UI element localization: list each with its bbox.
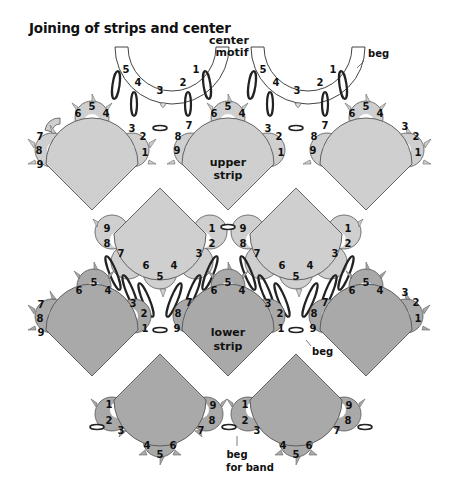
svg-text:3: 3 xyxy=(196,248,203,259)
svg-text:1: 1 xyxy=(142,323,149,334)
svg-text:9: 9 xyxy=(310,145,317,156)
svg-text:3: 3 xyxy=(265,298,272,309)
svg-text:3: 3 xyxy=(129,123,136,134)
svg-text:5: 5 xyxy=(363,277,370,288)
svg-text:4: 4 xyxy=(377,108,384,119)
upper-motif-3 xyxy=(320,118,412,210)
label-beg-top: beg xyxy=(368,48,389,59)
svg-text:2: 2 xyxy=(317,77,324,88)
svg-text:1: 1 xyxy=(242,399,249,410)
svg-text:9: 9 xyxy=(37,159,44,170)
svg-text:9: 9 xyxy=(240,223,247,234)
svg-text:5: 5 xyxy=(363,101,370,112)
svg-text:4: 4 xyxy=(103,108,110,119)
svg-text:4: 4 xyxy=(273,77,280,88)
svg-text:7: 7 xyxy=(186,120,193,131)
label-beg-lower: beg xyxy=(312,346,333,357)
svg-text:9: 9 xyxy=(346,400,353,411)
label-upper-strip: strip xyxy=(214,169,243,182)
svg-text:2: 2 xyxy=(106,415,113,426)
svg-text:9: 9 xyxy=(104,223,111,234)
label-motif: motif xyxy=(216,46,249,59)
label-lower-strip: strip xyxy=(214,340,243,353)
svg-text:8: 8 xyxy=(311,308,318,319)
svg-text:8: 8 xyxy=(104,238,111,249)
svg-text:6: 6 xyxy=(211,285,218,296)
svg-text:1: 1 xyxy=(278,147,285,158)
svg-text:3: 3 xyxy=(157,85,164,96)
svg-text:5: 5 xyxy=(293,449,300,460)
svg-text:6: 6 xyxy=(349,285,356,296)
svg-text:5: 5 xyxy=(91,277,98,288)
svg-text:9: 9 xyxy=(310,323,317,334)
svg-text:2: 2 xyxy=(180,77,187,88)
svg-text:1: 1 xyxy=(330,64,337,75)
svg-text:9: 9 xyxy=(174,145,181,156)
svg-text:1: 1 xyxy=(209,223,216,234)
lower-motif-1 xyxy=(46,284,138,376)
svg-text:8: 8 xyxy=(37,313,44,324)
svg-text:4: 4 xyxy=(144,440,151,451)
svg-text:1: 1 xyxy=(106,399,113,410)
label-upper: upper xyxy=(210,156,247,169)
svg-text:2: 2 xyxy=(242,415,249,426)
svg-text:9: 9 xyxy=(210,400,217,411)
svg-text:4: 4 xyxy=(239,285,246,296)
svg-text:5: 5 xyxy=(260,64,267,75)
svg-text:7: 7 xyxy=(198,425,205,436)
svg-text:8: 8 xyxy=(209,415,216,426)
svg-text:4: 4 xyxy=(239,108,246,119)
svg-text:6: 6 xyxy=(306,440,313,451)
upper-motif-1 xyxy=(46,118,138,210)
joining-diagram: 5 4 3 2 1 5 4 3 2 1 center motif beg xyxy=(0,0,456,500)
svg-text:3: 3 xyxy=(332,248,339,259)
svg-text:6: 6 xyxy=(76,285,83,296)
svg-text:8: 8 xyxy=(175,308,182,319)
svg-text:4: 4 xyxy=(135,77,142,88)
lower-motif-3 xyxy=(320,284,412,376)
svg-text:1: 1 xyxy=(142,147,149,158)
svg-text:2: 2 xyxy=(209,238,216,249)
svg-text:3: 3 xyxy=(402,287,409,298)
svg-text:6: 6 xyxy=(75,108,82,119)
svg-text:3: 3 xyxy=(118,425,125,436)
svg-text:1: 1 xyxy=(415,313,422,324)
svg-text:1: 1 xyxy=(278,323,285,334)
svg-text:6: 6 xyxy=(279,260,286,271)
svg-text:6: 6 xyxy=(349,108,356,119)
upper-motif-inv-1 xyxy=(114,188,206,280)
lower-motif-inv-1 xyxy=(114,354,206,446)
upper-motif-inv-2 xyxy=(250,188,342,280)
svg-text:8: 8 xyxy=(311,131,318,142)
svg-text:2: 2 xyxy=(345,238,352,249)
svg-text:7: 7 xyxy=(322,120,329,131)
lower-motif-inv-2 xyxy=(250,354,342,446)
svg-text:7: 7 xyxy=(186,297,193,308)
svg-text:3: 3 xyxy=(130,298,137,309)
svg-text:7: 7 xyxy=(38,299,45,310)
svg-text:8: 8 xyxy=(175,131,182,142)
svg-text:7: 7 xyxy=(254,248,261,259)
svg-text:4: 4 xyxy=(377,285,384,296)
label-for-band: for band xyxy=(226,462,274,473)
label-beg-band: beg xyxy=(226,449,247,460)
svg-text:6: 6 xyxy=(143,260,150,271)
svg-text:8: 8 xyxy=(345,415,352,426)
svg-text:1: 1 xyxy=(415,147,422,158)
svg-text:9: 9 xyxy=(174,323,181,334)
svg-text:2: 2 xyxy=(413,131,420,142)
svg-text:2: 2 xyxy=(277,308,284,319)
label-lower: lower xyxy=(211,326,246,339)
svg-text:4: 4 xyxy=(307,260,314,271)
svg-text:8: 8 xyxy=(240,238,247,249)
svg-text:1: 1 xyxy=(345,223,352,234)
svg-text:3: 3 xyxy=(254,425,261,436)
svg-text:5: 5 xyxy=(157,449,164,460)
svg-text:1: 1 xyxy=(193,64,200,75)
svg-text:2: 2 xyxy=(413,297,420,308)
svg-text:5: 5 xyxy=(225,101,232,112)
svg-text:3: 3 xyxy=(294,85,301,96)
svg-text:2: 2 xyxy=(140,131,147,142)
svg-text:5: 5 xyxy=(89,101,96,112)
svg-text:3: 3 xyxy=(265,123,272,134)
